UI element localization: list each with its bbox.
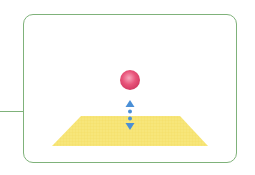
diagram-canvas <box>0 0 255 175</box>
ball <box>120 70 140 90</box>
